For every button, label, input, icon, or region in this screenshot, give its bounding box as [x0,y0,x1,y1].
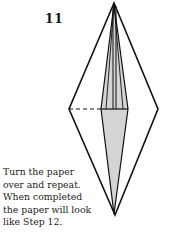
instruction-line: When completed [3,191,113,204]
instruction-text: Turn the paper over and repeat. When com… [3,166,113,229]
instruction-line: the paper will look [3,204,113,217]
instruction-line: over and repeat. [3,179,113,192]
instruction-line: Turn the paper [3,166,113,179]
instruction-line: like Step 12. [3,216,113,229]
